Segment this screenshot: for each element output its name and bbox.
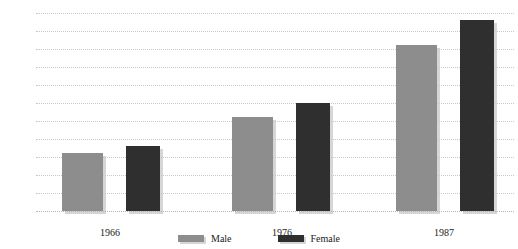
legend-swatch-male-icon — [178, 235, 204, 242]
gridline-30 — [36, 103, 514, 105]
chart-legend: Male Female — [0, 231, 518, 245]
bar-1976-male — [232, 117, 276, 211]
bar-body — [62, 153, 103, 211]
bar-body — [296, 103, 330, 211]
bar-body — [460, 20, 494, 211]
bar-1966-female — [126, 146, 163, 211]
bar-body — [396, 45, 437, 211]
plot-area: 55% 50 45 40 35 30 25 20 15 10 5 0 — [36, 13, 514, 211]
bar-1987-female — [460, 20, 497, 211]
legend-item-male: Male — [178, 233, 232, 244]
legend-label-female: Female — [311, 233, 340, 244]
legend-item-female: Female — [278, 233, 340, 244]
gridline-55 — [36, 13, 514, 15]
bar-chart: 55% 50 45 40 35 30 25 20 15 10 5 0 — [0, 0, 518, 249]
bar-1966-male — [62, 153, 106, 211]
bar-1976-female — [296, 103, 333, 211]
gridline-0 — [36, 211, 514, 213]
gridline-35 — [36, 85, 514, 87]
bar-1987-male — [396, 45, 440, 211]
legend-label-male: Male — [211, 233, 232, 244]
clipped-title-strip — [0, 0, 518, 6]
gridline-45 — [36, 49, 514, 51]
bar-body — [126, 146, 160, 211]
gridline-50 — [36, 31, 514, 33]
gridline-40 — [36, 67, 514, 69]
bar-body — [232, 117, 273, 211]
legend-swatch-female-icon — [278, 235, 304, 242]
